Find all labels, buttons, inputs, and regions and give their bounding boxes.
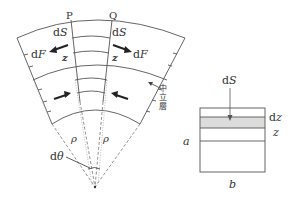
force-label-left: dF (31, 48, 46, 61)
angle-indicator (66, 157, 100, 169)
centre-of-curvature (94, 186, 96, 188)
beam-bending-figure: P Q dS dS dF dF z z ρ ρ dθ 中 立 層 dS dz z… (0, 0, 291, 202)
arc-length-label-left: dS (53, 26, 68, 39)
cross-section (200, 88, 265, 172)
angle-label: dθ (50, 150, 64, 163)
height-label: a (183, 135, 190, 148)
strip-thickness-label: dz (269, 111, 282, 124)
radius-label-right: ρ (102, 133, 109, 144)
radial-lines (33, 80, 140, 187)
width-label: b (229, 178, 236, 191)
strip-distance-label: z (272, 126, 279, 139)
neutral-layer-label-1: 中 (159, 83, 167, 93)
area-label: dS (222, 74, 237, 87)
shaded-strip (200, 117, 265, 128)
outer-arc (17, 20, 185, 38)
compression-arrow-right (116, 95, 128, 99)
arc-length-label-right: dS (112, 26, 127, 39)
force-label-right: dF (133, 48, 148, 61)
distance-label-left: z (61, 52, 68, 63)
inner-arc (52, 110, 140, 124)
neutral-layer-label-3: 層 (159, 102, 167, 111)
angle-leader-line (66, 157, 90, 168)
distance-label-right: z (111, 52, 118, 63)
compression-arrow-left (54, 95, 66, 99)
neutral-layer-label-2: 立 (159, 92, 167, 102)
section-label-p: P (66, 10, 73, 21)
radius-label-left: ρ (70, 133, 77, 144)
neutral-arc (33, 65, 167, 80)
section-p-line (71, 20, 80, 102)
section-label-q: Q (109, 10, 117, 21)
section-q-line (103, 20, 112, 102)
